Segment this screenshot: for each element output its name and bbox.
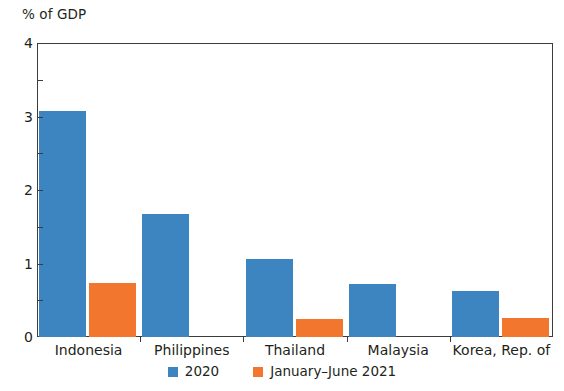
y-axis-tick-label: 0 — [3, 330, 33, 344]
x-axis-category-labels: IndonesiaPhilippinesThailandMalaysiaKore… — [37, 340, 553, 362]
y-axis-tick-labels: 01234 — [0, 43, 33, 337]
bar-indonesia-2021 — [89, 283, 136, 337]
bar-malaysia-2020 — [349, 284, 396, 337]
legend-label: January–June 2021 — [270, 365, 396, 379]
y-axis-minor-tick-mark — [37, 300, 43, 301]
bar-thailand-2021 — [296, 319, 343, 337]
y-axis-tick-mark — [37, 190, 43, 191]
x-axis-label-indonesia: Indonesia — [37, 340, 140, 360]
x-axis-label-thailand: Thailand — [243, 340, 346, 360]
bar-philippines-2020 — [142, 214, 189, 337]
x-axis-label-malaysia: Malaysia — [347, 340, 450, 360]
bar-indonesia-2020 — [39, 111, 86, 337]
x-axis-tick-mark — [450, 337, 451, 342]
bar-korea-rep-of-2021 — [502, 318, 549, 337]
legend-swatch-icon — [168, 367, 178, 377]
y-axis-minor-tick-mark — [37, 80, 43, 81]
y-axis-tick-label: 4 — [3, 36, 33, 50]
bar-chart: % of GDP 01234 IndonesiaPhilippinesThail… — [0, 0, 564, 391]
y-axis-minor-tick-mark — [37, 227, 43, 228]
y-axis-tick-label: 1 — [3, 257, 33, 271]
x-axis-tick-mark — [243, 337, 244, 342]
legend-label: 2020 — [185, 365, 219, 379]
bar-korea-rep-of-2020 — [452, 291, 499, 337]
y-axis-title: % of GDP — [22, 6, 86, 22]
legend-item[interactable]: January–June 2021 — [253, 365, 396, 379]
x-axis-tick-mark — [347, 337, 348, 342]
chart-legend: 2020January–June 2021 — [0, 365, 564, 379]
x-axis-label-philippines: Philippines — [140, 340, 243, 360]
legend-swatch-icon — [253, 367, 263, 377]
y-axis-tick-mark — [37, 117, 43, 118]
legend-item[interactable]: 2020 — [168, 365, 219, 379]
x-axis-tick-mark — [140, 337, 141, 342]
y-axis-tick-label: 3 — [3, 110, 33, 124]
y-axis-minor-tick-mark — [37, 153, 43, 154]
y-axis-tick-mark — [37, 264, 43, 265]
y-axis-tick-label: 2 — [3, 183, 33, 197]
y-axis-tick-mark — [37, 43, 43, 44]
bar-thailand-2020 — [246, 259, 293, 337]
x-axis-label-korea-rep-of: Korea, Rep. of — [450, 340, 553, 360]
bars-layer — [37, 43, 553, 337]
